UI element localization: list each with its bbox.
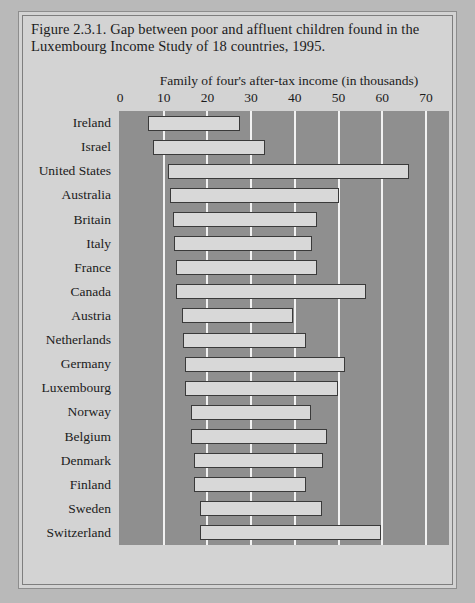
bar-row [119, 304, 449, 328]
bar-row [119, 352, 449, 376]
bar-row [119, 328, 449, 352]
x-tick-label-60: 60 [375, 90, 389, 106]
category-label-denmark: Denmark [61, 453, 111, 469]
bar-row [119, 232, 449, 256]
category-label-canada: Canada [71, 284, 111, 300]
bar-norway[interactable] [191, 405, 311, 420]
category-label-austria: Austria [71, 308, 111, 324]
bar-row [119, 256, 449, 280]
x-axis-title: Family of four's after-tax income (in th… [119, 73, 459, 89]
bar-ireland[interactable] [148, 116, 240, 131]
bar-row [119, 497, 449, 521]
bar-row [119, 521, 449, 545]
x-tick-label-10: 10 [157, 90, 171, 106]
y-axis-category-labels: IrelandIsraelUnited StatesAustraliaBrita… [19, 111, 117, 545]
bar-austria[interactable] [182, 308, 293, 323]
x-tick-label-0: 0 [117, 90, 124, 106]
bar-italy[interactable] [174, 236, 312, 251]
bar-row [119, 183, 449, 207]
category-label-france: France [74, 260, 111, 276]
bar-finland[interactable] [194, 477, 306, 492]
bar-row [119, 473, 449, 497]
bar-canada[interactable] [176, 284, 366, 299]
bar-row [119, 111, 449, 135]
bar-row [119, 135, 449, 159]
category-label-belgium: Belgium [65, 429, 112, 445]
bar-switzerland[interactable] [200, 525, 381, 540]
bar-row [119, 449, 449, 473]
bar-germany[interactable] [185, 357, 345, 372]
category-label-germany: Germany [61, 356, 111, 372]
bar-united-states[interactable] [168, 164, 409, 179]
category-label-norway: Norway [68, 404, 112, 420]
figure-frame: Figure 2.3.1. Gap between poor and afflu… [18, 11, 457, 589]
category-label-netherlands: Netherlands [46, 332, 111, 348]
category-label-switzerland: Switzerland [47, 525, 111, 541]
category-label-united-states: United States [39, 163, 111, 179]
bar-france[interactable] [176, 260, 317, 275]
category-label-britain: Britain [74, 212, 112, 228]
category-label-sweden: Sweden [68, 501, 111, 517]
bar-row [119, 424, 449, 448]
category-label-luxembourg: Luxembourg [42, 380, 112, 396]
bar-sweden[interactable] [200, 501, 322, 516]
bar-britain[interactable] [173, 212, 317, 227]
bar-row [119, 376, 449, 400]
bar-belgium[interactable] [191, 429, 327, 444]
bar-row [119, 159, 449, 183]
x-tick-label-50: 50 [332, 90, 346, 106]
x-tick-label-40: 40 [288, 90, 302, 106]
bar-row [119, 280, 449, 304]
bar-chart: Family of four's after-tax income (in th… [19, 12, 458, 590]
x-tick-label-70: 70 [419, 90, 433, 106]
category-label-finland: Finland [70, 477, 111, 493]
category-label-israel: Israel [81, 139, 111, 155]
plot-area [119, 111, 449, 545]
x-tick-label-20: 20 [201, 90, 215, 106]
bar-netherlands[interactable] [183, 333, 306, 348]
bar-row [119, 207, 449, 231]
x-axis-tick-labels: 010203040506070 [19, 90, 458, 110]
bar-luxembourg[interactable] [185, 381, 338, 396]
category-label-ireland: Ireland [73, 115, 111, 131]
category-label-italy: Italy [86, 236, 111, 252]
bar-denmark[interactable] [194, 453, 323, 468]
x-tick-label-30: 30 [244, 90, 258, 106]
bar-row [119, 400, 449, 424]
category-label-australia: Australia [62, 187, 112, 203]
bar-australia[interactable] [170, 188, 339, 203]
bar-israel[interactable] [153, 140, 265, 155]
